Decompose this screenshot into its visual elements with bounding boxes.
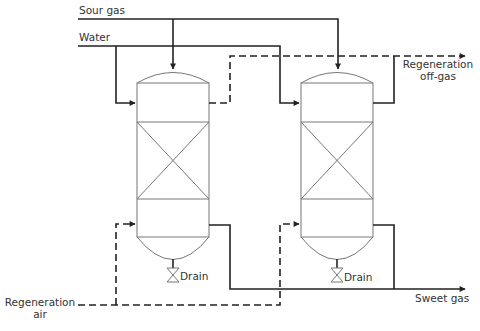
vessel-left-top-head xyxy=(137,73,209,84)
process-diagram xyxy=(0,0,480,331)
drain-valve-left xyxy=(167,259,179,282)
vessel-left xyxy=(137,73,209,260)
drain-label-left: Drain xyxy=(180,270,208,282)
vessel-right-bottom-head xyxy=(301,237,373,260)
regen-offgas-label-line2: off-gas xyxy=(398,70,478,82)
drain-label-right: Drain xyxy=(344,271,372,283)
regen-air-line xyxy=(78,224,299,305)
sour-gas-line xyxy=(78,19,338,69)
regen-air-label-line2: air xyxy=(2,308,78,320)
vessel-right xyxy=(301,73,373,260)
sweet-gas-label: Sweet gas xyxy=(415,292,469,304)
regen-offgas-label: Regeneration off-gas xyxy=(398,58,478,82)
regen-offgas-label-line1: Regeneration xyxy=(398,58,478,70)
regen-air-label: Regeneration air xyxy=(2,296,78,320)
drain-valve-right xyxy=(331,259,343,282)
vessel-right-top-head xyxy=(301,73,373,84)
regen-air-label-line1: Regeneration xyxy=(2,296,78,308)
sour-gas-label: Sour gas xyxy=(79,4,125,16)
vessel-left-bottom-head xyxy=(137,237,209,260)
water-label: Water xyxy=(79,31,110,43)
